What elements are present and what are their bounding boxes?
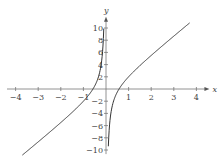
y-tick-label: −6 (91, 122, 103, 131)
y-tick-label: −2 (91, 97, 103, 106)
y-tick-label: −4 (91, 109, 103, 118)
y-tick-label: 10 (93, 24, 103, 33)
y-axis-arrow-icon (104, 17, 108, 22)
function-plot: xy−4−3−2−11234108642−2−4−6−8−10 (0, 0, 222, 167)
x-tick-label: −2 (55, 93, 67, 102)
curve-right-branch (108, 23, 189, 146)
y-tick-label: 8 (98, 36, 103, 45)
y-tick-label: −8 (91, 134, 103, 143)
y-tick-label: −10 (86, 146, 103, 155)
y-axis-label: y (103, 6, 109, 15)
axes (7, 17, 209, 154)
tick-labels: xy−4−3−2−11234108642−2−4−6−8−10 (10, 6, 218, 155)
x-tick-label: 4 (194, 93, 199, 102)
x-tick-label: −3 (32, 93, 44, 102)
x-tick-label: 3 (171, 93, 176, 102)
x-tick-label: 2 (149, 93, 154, 102)
x-tick-label: −4 (10, 93, 22, 102)
x-axis-arrow-icon (204, 87, 209, 91)
x-axis-label: x (212, 85, 217, 94)
x-tick-label: 1 (126, 93, 131, 102)
